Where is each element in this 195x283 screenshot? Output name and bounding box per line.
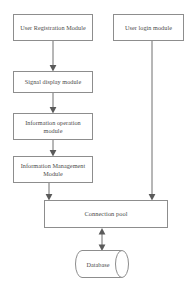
node-user-registration-module[interactable]: User Registration Module: [13, 14, 93, 41]
node-label: Database: [72, 250, 124, 278]
edge-registration-to-signal: [50, 41, 57, 72]
node-label: Connection pool: [47, 210, 165, 218]
node-label: User login module: [116, 24, 181, 32]
node-information-management-module[interactable]: Information Management Module: [13, 156, 93, 183]
edge-login-to-pool: [149, 41, 156, 201]
edge-management-to-pool: [46, 183, 53, 201]
node-label: Information Management Module: [16, 162, 90, 178]
node-signal-display-module[interactable]: Signal display module: [13, 71, 93, 93]
node-user-login-module[interactable]: User login module: [113, 14, 184, 41]
node-information-operation-module[interactable]: Information operation module: [13, 113, 93, 140]
node-label: Signal display module: [16, 78, 90, 86]
architecture-diagram: User Registration Module User login modu…: [0, 0, 195, 283]
node-label: User Registration Module: [16, 24, 90, 32]
node-database[interactable]: Database: [72, 250, 132, 278]
edge-operation-to-management: [50, 140, 57, 157]
edge-signal-to-operation: [50, 93, 57, 114]
node-connection-pool[interactable]: Connection pool: [44, 200, 168, 228]
diagram-connectors: [0, 0, 195, 283]
node-label: Information operation module: [16, 119, 90, 135]
edge-pool-to-database: [99, 228, 106, 251]
